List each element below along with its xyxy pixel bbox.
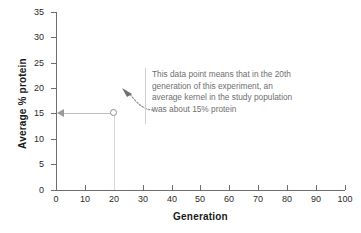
annotation-line-4: was about 15% protein bbox=[152, 104, 352, 116]
x-tick-label-30: 30 bbox=[128, 195, 158, 204]
annotation-line-1: This data point means that in the 20th bbox=[152, 69, 352, 81]
annotation-line-3: average kernel in the study population bbox=[152, 92, 352, 104]
y-tick-label-35: 35 bbox=[20, 8, 44, 17]
y-tick-25 bbox=[51, 63, 56, 64]
y-tick-0 bbox=[51, 190, 56, 191]
x-tick-10 bbox=[85, 185, 86, 190]
x-tick-60 bbox=[229, 185, 230, 190]
x-tick-label-10: 10 bbox=[70, 195, 100, 204]
x-tick-40 bbox=[172, 185, 173, 190]
x-tick-80 bbox=[287, 185, 288, 190]
x-axis-line bbox=[56, 190, 345, 191]
y-tick-30 bbox=[51, 37, 56, 38]
x-tick-label-80: 80 bbox=[272, 195, 302, 204]
y-axis-title: Average % protein bbox=[17, 39, 28, 169]
x-tick-label-60: 60 bbox=[214, 195, 244, 204]
x-tick-label-20: 20 bbox=[99, 195, 129, 204]
x-tick-50 bbox=[200, 185, 201, 190]
x-tick-label-0: 0 bbox=[41, 195, 71, 204]
annotation-text: This data point means that in the 20th g… bbox=[152, 69, 352, 115]
x-tick-label-90: 90 bbox=[301, 195, 331, 204]
annotation-line-2: generation of this experiment, an bbox=[152, 81, 352, 93]
y-value-arrow-icon bbox=[57, 109, 64, 117]
y-tick-15 bbox=[51, 113, 56, 114]
protein-generation-scatter-chart: 0 5 10 15 20 25 30 35 0 10 20 30 40 50 6… bbox=[0, 0, 361, 233]
x-tick-70 bbox=[258, 185, 259, 190]
horizontal-guide-line bbox=[62, 113, 114, 114]
x-tick-0 bbox=[56, 185, 57, 190]
y-tick-20 bbox=[51, 88, 56, 89]
annotation-left-rule bbox=[145, 68, 146, 124]
data-point-marker[interactable] bbox=[110, 109, 117, 116]
x-axis-title: Generation bbox=[56, 211, 345, 222]
x-tick-label-70: 70 bbox=[243, 195, 273, 204]
x-tick-90 bbox=[316, 185, 317, 190]
x-tick-30 bbox=[143, 185, 144, 190]
y-tick-35 bbox=[51, 12, 56, 13]
y-tick-10 bbox=[51, 139, 56, 140]
y-axis-line bbox=[56, 12, 57, 190]
x-tick-label-40: 40 bbox=[157, 195, 187, 204]
x-tick-label-50: 50 bbox=[185, 195, 215, 204]
y-tick-5 bbox=[51, 164, 56, 165]
vertical-guide-line bbox=[114, 114, 115, 190]
x-tick-100 bbox=[345, 185, 346, 190]
annotation-arrow-icon bbox=[120, 86, 154, 112]
x-tick-label-100: 100 bbox=[330, 195, 360, 204]
y-tick-label-0: 0 bbox=[20, 186, 44, 195]
